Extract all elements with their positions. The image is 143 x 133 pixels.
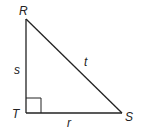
side-label-t: t: [84, 55, 88, 69]
side-t-line: [26, 19, 122, 113]
triangle-shape: [26, 19, 122, 113]
side-label-r: r: [67, 116, 72, 130]
side-label-s: s: [14, 63, 20, 77]
right-angle-marker: [26, 98, 41, 113]
vertex-label-s: S: [125, 110, 133, 124]
triangle-diagram: R T S s t r: [0, 0, 143, 133]
vertex-label-r: R: [19, 4, 28, 18]
vertex-label-t: T: [12, 107, 21, 121]
